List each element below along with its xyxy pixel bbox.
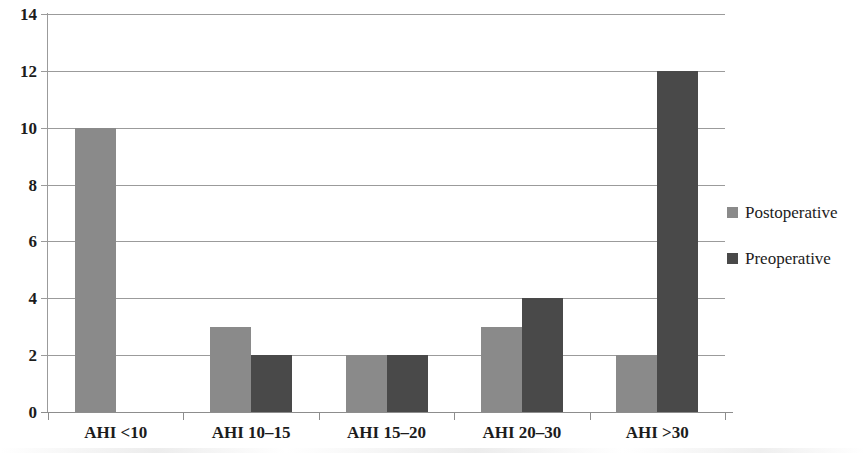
bar-preoperative-ahi-10-15 bbox=[251, 355, 292, 412]
y-axis-tick bbox=[41, 185, 48, 186]
y-axis-tick bbox=[41, 355, 48, 356]
legend-label: Postoperative bbox=[745, 204, 838, 221]
x-axis-category-label: AHI 10–15 bbox=[183, 424, 318, 441]
bar-postoperative-ahi-15-20 bbox=[346, 355, 387, 412]
bar-postoperative-ahi-10 bbox=[75, 128, 116, 412]
scan-edge-artifact bbox=[0, 448, 865, 453]
legend-item: Postoperative bbox=[727, 197, 838, 227]
legend-item: Preoperative bbox=[727, 243, 838, 273]
legend-label: Preoperative bbox=[745, 250, 831, 267]
bar-postoperative-ahi-10-15 bbox=[210, 327, 251, 412]
y-axis-tick bbox=[41, 128, 48, 129]
y-axis-tick-label: 4 bbox=[7, 290, 37, 307]
y-axis-tick bbox=[41, 71, 48, 72]
x-axis-category-label: AHI >30 bbox=[590, 424, 725, 441]
bar-chart: 14121086420 AHI <10AHI 10–15AHI 15–20AHI… bbox=[0, 0, 865, 453]
y-axis-tick-label: 0 bbox=[7, 404, 37, 421]
y-axis-tick bbox=[41, 298, 48, 299]
x-axis-category-label: AHI <10 bbox=[48, 424, 183, 441]
y-axis-tick-label: 12 bbox=[7, 63, 37, 80]
y-axis-tick-label: 14 bbox=[7, 6, 37, 23]
bar-preoperative-ahi-30 bbox=[657, 71, 698, 412]
bar-preoperative-ahi-15-20 bbox=[387, 355, 428, 412]
x-axis-tick bbox=[725, 413, 726, 420]
y-axis-tick bbox=[41, 241, 48, 242]
y-axis-tick-label: 2 bbox=[7, 347, 37, 364]
x-axis-tick bbox=[454, 413, 455, 420]
x-axis-tick bbox=[319, 413, 320, 420]
bar-postoperative-ahi-30 bbox=[616, 355, 657, 412]
x-axis-tick bbox=[590, 413, 591, 420]
y-axis-tick bbox=[41, 14, 48, 15]
bar-preoperative-ahi-20-30 bbox=[522, 298, 563, 412]
x-axis-category-label: AHI 15–20 bbox=[319, 424, 454, 441]
x-axis-tick bbox=[183, 413, 184, 420]
x-axis-tick bbox=[48, 413, 49, 420]
x-axis-category-label: AHI 20–30 bbox=[454, 424, 589, 441]
x-axis-line bbox=[41, 412, 733, 413]
y-axis-tick-label: 10 bbox=[7, 120, 37, 137]
legend-swatch-icon bbox=[727, 207, 738, 218]
bar-postoperative-ahi-20-30 bbox=[481, 327, 522, 412]
chart-legend: PostoperativePreoperative bbox=[727, 197, 838, 289]
y-axis-tick-label: 8 bbox=[7, 177, 37, 194]
bars-layer bbox=[48, 14, 725, 412]
y-axis-tick-label: 6 bbox=[7, 233, 37, 250]
legend-swatch-icon bbox=[727, 253, 738, 264]
